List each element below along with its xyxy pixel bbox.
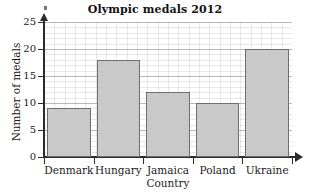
x-tick-label-jamaica: Jamaica — [143, 164, 193, 176]
x-tick-label-denmark: Denmark — [44, 164, 94, 176]
y-tick-label: 5 — [12, 124, 36, 135]
y-tick-label: 0 — [12, 151, 36, 162]
bar-jamaica — [146, 92, 190, 157]
y-tick-label: 20 — [12, 43, 36, 54]
y-axis-arrow-icon — [40, 13, 48, 21]
x-tick-label-poland: Poland — [193, 164, 243, 176]
y-tick-label: 10 — [12, 97, 36, 108]
bar-poland — [196, 103, 240, 157]
x-tick-mark — [292, 158, 293, 164]
x-tick-label-hungary: Hungary — [94, 164, 144, 176]
bar-denmark — [47, 108, 91, 157]
bars-layer — [44, 22, 292, 157]
y-tick-label: 25 — [12, 16, 36, 27]
x-tick-label-ukraine: Ukraine — [242, 164, 292, 176]
y-tick-label: 15 — [12, 70, 36, 81]
x-axis-title: Country — [44, 177, 292, 189]
x-axis-arrow-icon — [295, 152, 303, 162]
bar-ukraine — [245, 49, 289, 157]
bar-chart: Olympic medals 2012 Number of medals 051… — [0, 0, 310, 192]
bar-hungary — [97, 60, 141, 157]
